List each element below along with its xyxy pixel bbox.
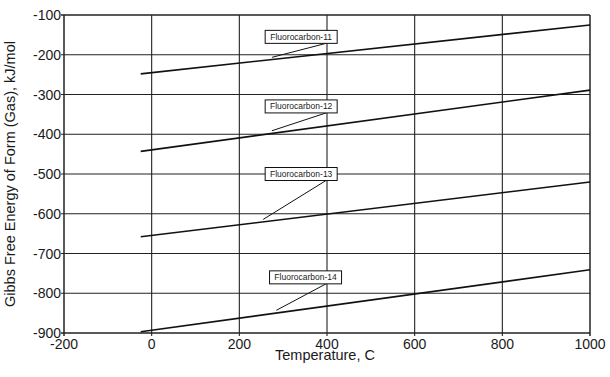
callout-label: Fluorocarbon-11	[270, 32, 332, 42]
x-tick-label: 1000	[574, 336, 605, 352]
y-tick-label: -200	[33, 47, 61, 63]
callout-leader	[276, 284, 326, 310]
y-tick-label: -700	[33, 246, 61, 262]
x-tick-label: 200	[228, 336, 252, 352]
series-line	[141, 25, 590, 74]
x-tick-label: 0	[148, 336, 156, 352]
y-tick-label: -900	[33, 325, 61, 341]
series-line	[141, 182, 590, 237]
callout-label: Fluorocarbon-14	[274, 272, 337, 282]
y-tick-label: -800	[33, 285, 61, 301]
y-axis-label: Gibbs Free Energy of Form (Gas), kJ/mol	[2, 41, 18, 307]
y-tick-label: -600	[33, 206, 61, 222]
callout-leader	[272, 113, 326, 131]
y-tick-label: -100	[33, 7, 61, 23]
x-tick-label: 600	[403, 336, 427, 352]
series-line	[141, 270, 590, 332]
y-tick-label: -500	[33, 166, 61, 182]
chart: Fluorocarbon-11Fluorocarbon-12Fluorocarb…	[0, 0, 610, 377]
callouts: Fluorocarbon-11Fluorocarbon-12Fluorocarb…	[263, 30, 341, 310]
y-tick-label: -300	[33, 87, 61, 103]
callout-label: Fluorocarbon-13	[270, 169, 333, 179]
series-line	[141, 90, 590, 151]
series-lines	[141, 25, 590, 332]
x-tick-label: 800	[491, 336, 515, 352]
callout-label: Fluorocarbon-12	[270, 101, 333, 111]
y-tick-label: -400	[33, 126, 61, 142]
y-tick-labels: -100-200-300-400-500-600-700-800-900	[33, 7, 61, 341]
x-axis-label: Temperature, C	[275, 347, 375, 363]
